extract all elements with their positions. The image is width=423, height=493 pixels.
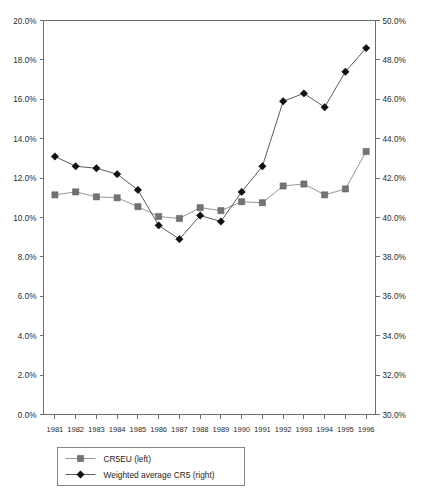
data-point-weighted-cr5: [113, 170, 120, 177]
legend-label-cr5eu: CR5EU (left): [104, 454, 152, 464]
x-axis-tick-label: 1994: [316, 425, 333, 434]
data-point-cr5eu: [93, 194, 99, 200]
right-axis-tick-label: 40.0%: [383, 214, 406, 223]
right-axis-tick-label: 34.0%: [383, 332, 406, 341]
data-point-weighted-cr5: [217, 218, 224, 225]
right-axis-tick-label: 48.0%: [383, 56, 406, 65]
x-axis-tick-label: 1993: [295, 425, 312, 434]
data-point-cr5eu: [176, 215, 182, 221]
data-point-cr5eu: [73, 189, 79, 195]
right-axis-tick-label: 30.0%: [383, 411, 406, 420]
left-axis-tick-label: 2.0%: [18, 371, 37, 380]
data-point-cr5eu: [135, 204, 141, 210]
right-axis-tick-label: 42.0%: [383, 174, 406, 183]
right-axis-tick-label: 46.0%: [383, 95, 406, 104]
chart-container: 0.0%2.0%4.0%6.0%8.0%10.0%12.0%14.0%16.0%…: [0, 0, 423, 493]
x-axis-tick-label: 1986: [150, 425, 167, 434]
x-axis-tick-label: 1988: [192, 425, 209, 434]
data-point-weighted-cr5: [279, 98, 286, 105]
x-axis-tick-label: 1991: [254, 425, 271, 434]
data-point-cr5eu: [156, 213, 162, 219]
data-point-cr5eu: [280, 183, 286, 189]
data-point-cr5eu: [52, 192, 58, 198]
data-point-weighted-cr5: [155, 222, 162, 229]
data-point-cr5eu: [218, 208, 224, 214]
x-axis-tick-label: 1982: [67, 425, 84, 434]
left-axis-tick-label: 6.0%: [18, 292, 37, 301]
data-point-cr5eu: [363, 148, 369, 154]
data-point-cr5eu: [259, 200, 265, 206]
data-point-weighted-cr5: [134, 186, 141, 193]
data-point-weighted-cr5: [300, 90, 307, 97]
right-axis-tick-label: 36.0%: [383, 292, 406, 301]
dual-axis-line-chart: 0.0%2.0%4.0%6.0%8.0%10.0%12.0%14.0%16.0%…: [0, 0, 423, 493]
data-point-cr5eu: [322, 192, 328, 198]
data-point-weighted-cr5: [321, 103, 328, 110]
data-point-cr5eu: [114, 195, 120, 201]
x-axis-tick-label: 1981: [46, 425, 63, 434]
data-point-weighted-cr5: [93, 165, 100, 172]
data-point-weighted-cr5: [51, 153, 58, 160]
x-axis-tick-label: 1984: [109, 425, 126, 434]
series-line-weighted-cr5: [55, 48, 366, 239]
right-axis-tick-label: 38.0%: [383, 253, 406, 262]
left-axis-tick-label: 4.0%: [18, 332, 37, 341]
left-axis-tick-label: 20.0%: [13, 17, 36, 26]
left-axis-tick-label: 18.0%: [13, 56, 36, 65]
left-axis-tick-label: 10.0%: [13, 214, 36, 223]
left-axis-tick-label: 0.0%: [18, 411, 37, 420]
data-point-cr5eu: [197, 205, 203, 211]
left-axis-tick-label: 8.0%: [18, 253, 37, 262]
left-axis-tick-label: 16.0%: [13, 95, 36, 104]
series-line-cr5eu: [55, 152, 366, 219]
square-marker: [77, 455, 83, 461]
data-point-cr5eu: [301, 181, 307, 187]
x-axis-tick-label: 1995: [337, 425, 354, 434]
right-axis-tick-label: 44.0%: [383, 135, 406, 144]
legend-box: [58, 448, 245, 486]
right-axis-tick-label: 32.0%: [383, 371, 406, 380]
x-axis-tick-label: 1990: [233, 425, 250, 434]
legend-label-weighted-cr5: Weighted average CR5 (right): [104, 470, 215, 480]
left-axis-tick-label: 14.0%: [13, 135, 36, 144]
x-axis-tick-label: 1989: [212, 425, 229, 434]
data-point-weighted-cr5: [72, 163, 79, 170]
x-axis-tick-label: 1985: [129, 425, 146, 434]
x-axis-tick-label: 1987: [171, 425, 188, 434]
x-axis-tick-label: 1992: [275, 425, 292, 434]
right-axis-tick-label: 50.0%: [383, 17, 406, 26]
x-axis-tick-label: 1996: [358, 425, 375, 434]
data-point-cr5eu: [342, 186, 348, 192]
left-axis-tick-label: 12.0%: [13, 174, 36, 183]
data-point-cr5eu: [239, 199, 245, 205]
x-axis-tick-label: 1983: [88, 425, 105, 434]
